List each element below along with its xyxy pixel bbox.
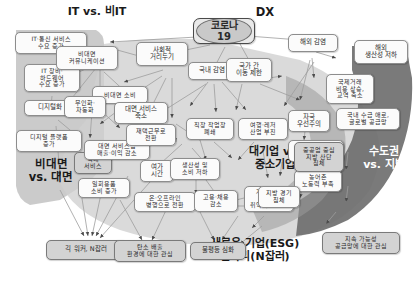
- group-label-dx: DX: [248, 6, 282, 19]
- node-face-service-reduce[interactable]: 대면 서비스 축소: [114, 102, 168, 124]
- node-productivity-consumption-down[interactable]: 생산성 및 소비 저하: [170, 158, 220, 180]
- node-corona[interactable]: 코로나19: [193, 18, 255, 44]
- node-disposable-goods[interactable]: 일회용품 소비 증가: [78, 178, 130, 198]
- node-travel-leisure-slump[interactable]: 여행·레저 산업 부진: [238, 118, 288, 140]
- node-overseas-infection[interactable]: 해외 감염: [288, 34, 338, 52]
- node-trade-cost-up[interactable]: 국제거래 비용 상승, 교역 축소: [326, 74, 374, 104]
- node-leisure-time[interactable]: 여가 시간: [140, 160, 174, 182]
- node-sustainability-supplychain[interactable]: 지속 가능성 공급망에 대한 관심: [322, 232, 400, 254]
- node-corona-label: 코로나19: [196, 18, 252, 44]
- node-cross-border-restriction[interactable]: 국가 간 이동 제한: [226, 58, 272, 82]
- node-social-distancing[interactable]: 사회적 거리두기: [136, 42, 188, 66]
- group-label-it: IT vs. 비IT: [42, 6, 152, 19]
- node-unmanned-automation[interactable]: 무인화· 자동화: [64, 96, 106, 118]
- node-hiring-decline[interactable]: 고용·채용 감소: [194, 190, 238, 212]
- node-workplace-closure[interactable]: 직장 작업장 폐쇄: [186, 118, 234, 140]
- node-heavy-industry-decline[interactable]: 중공업 중심 지방 산단 침체: [294, 142, 344, 172]
- node-on-offline-shift[interactable]: 온·오프라인 병행으로 전환: [134, 192, 196, 212]
- diagram-canvas: IT vs. 비IT 비대면 vs. 대면 대기업 vs. 중소기업 수도권 v…: [0, 0, 417, 282]
- node-inequality[interactable]: 불평등 심화: [190, 242, 246, 260]
- node-untact-communication[interactable]: 비대면 커뮤니케이션: [56, 46, 118, 70]
- node-rural-labor-shortage[interactable]: 농어촌 노동력 부족: [294, 170, 342, 192]
- node-overseas-productivity-down[interactable]: 해외 생산성 저하: [354, 40, 408, 64]
- node-nationalism[interactable]: 자국 우선주의: [288, 110, 330, 132]
- node-digital-platform[interactable]: 디지털 플랫폼 증가: [16, 130, 82, 152]
- group-label-region: 수도권 vs. 지방: [352, 146, 416, 171]
- node-carbon-environment[interactable]: 탄소 배출 환경에 대한 관심: [114, 240, 186, 262]
- node-supply-chain[interactable]: 국내 수급 애로, 글로벌 공급망: [336, 108, 400, 130]
- node-remote-work[interactable]: 재택근무로 전환: [126, 124, 176, 146]
- node-local-economy-slump[interactable]: 지방 경기 침체: [258, 186, 300, 208]
